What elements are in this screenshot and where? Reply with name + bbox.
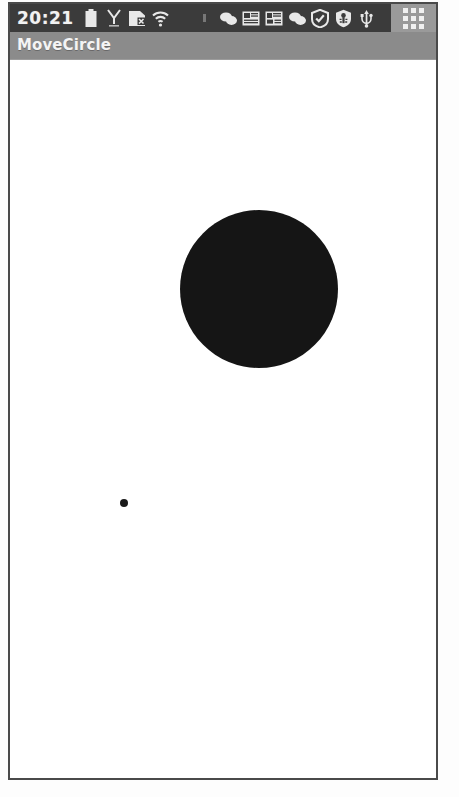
drawer-dot bbox=[419, 24, 424, 29]
sd-card-icon bbox=[128, 7, 147, 29]
drawer-dot bbox=[411, 16, 416, 21]
news-panel-alt-icon bbox=[265, 7, 284, 29]
wifi-icon bbox=[151, 7, 170, 29]
battery-icon bbox=[82, 7, 101, 29]
shield-check-icon bbox=[311, 7, 330, 29]
notification-dot-icon bbox=[196, 7, 215, 29]
app-title: MoveCircle bbox=[17, 38, 111, 53]
app-drawer-panel[interactable] bbox=[391, 4, 436, 32]
device-frame: 20:21 bbox=[8, 2, 438, 780]
chat-bubbles-icon bbox=[219, 7, 238, 29]
drawer-dot bbox=[419, 16, 424, 21]
app-drawer-icon[interactable] bbox=[403, 8, 424, 29]
usb-debug-icon bbox=[334, 7, 353, 29]
app-title-bar: MoveCircle bbox=[10, 32, 436, 60]
drawer-dot bbox=[403, 16, 408, 21]
drawer-dot bbox=[411, 24, 416, 29]
news-panel-icon bbox=[242, 7, 261, 29]
touch-point-dot[interactable] bbox=[120, 499, 128, 507]
movable-circle[interactable] bbox=[180, 210, 338, 368]
chat-bubbles-alt-icon bbox=[288, 7, 307, 29]
app-canvas[interactable] bbox=[10, 61, 436, 778]
drawer-dot bbox=[419, 8, 424, 13]
status-clock: 20:21 bbox=[17, 10, 74, 27]
drawer-dot bbox=[411, 8, 416, 13]
signal-antenna-icon bbox=[105, 7, 124, 29]
status-icon-tray bbox=[82, 4, 376, 32]
drawer-dot bbox=[403, 8, 408, 13]
usb-icon bbox=[357, 7, 376, 29]
status-bar: 20:21 bbox=[10, 4, 436, 32]
drawer-dot bbox=[403, 24, 408, 29]
